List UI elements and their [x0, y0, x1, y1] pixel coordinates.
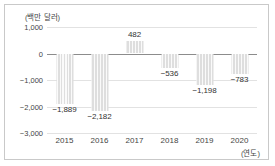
x-axis-tick-label: 2019: [196, 136, 214, 145]
bar-slot: −783: [222, 27, 257, 133]
bar-value-label: −783: [231, 75, 249, 84]
bar-value-label: −1,198: [192, 86, 216, 95]
chart-figure: (백만 달러) −1,889−2,182482−536−1,198−783 1,…: [4, 4, 269, 160]
bar-slot: −1,889: [47, 27, 82, 133]
gridline: [47, 133, 257, 134]
bar: [231, 54, 248, 75]
x-axis-tick-labels: 201520162017201820192020: [47, 136, 257, 148]
bar-slot: −1,198: [187, 27, 222, 133]
bar-slot: −2,182: [82, 27, 117, 133]
bar: [91, 54, 108, 112]
y-axis-unit-caption: (백만 달러): [25, 11, 60, 22]
y-axis-tick-label: −3,000: [5, 129, 43, 138]
y-axis-tick-label: 0: [5, 49, 43, 58]
x-axis-tick-label: 2016: [91, 136, 109, 145]
x-axis-tick-label: 2018: [161, 136, 179, 145]
x-axis-tick-label: 2015: [56, 136, 74, 145]
bar-slot: 482: [117, 27, 152, 133]
bar-slot: −536: [152, 27, 187, 133]
x-axis-tick-label: 2020: [231, 136, 249, 145]
bar-value-label: −1,889: [52, 105, 76, 114]
x-axis-tick-label: 2017: [126, 136, 144, 145]
bar-value-label: 482: [128, 30, 141, 39]
bar-series: −1,889−2,182482−536−1,198−783: [47, 27, 257, 133]
bar: [126, 41, 143, 54]
bar: [196, 54, 213, 86]
y-axis-tick-label: −2,000: [5, 102, 43, 111]
plot-area: −1,889−2,182482−536−1,198−783: [47, 27, 257, 133]
bar: [161, 54, 178, 68]
x-axis-caption: (연도): [241, 147, 260, 158]
bar: [56, 54, 73, 104]
y-axis-tick-label: 1,000: [5, 23, 43, 32]
bar-value-label: −536: [161, 69, 179, 78]
y-axis-tick-label: −1,000: [5, 76, 43, 85]
bar-value-label: −2,182: [87, 112, 111, 121]
